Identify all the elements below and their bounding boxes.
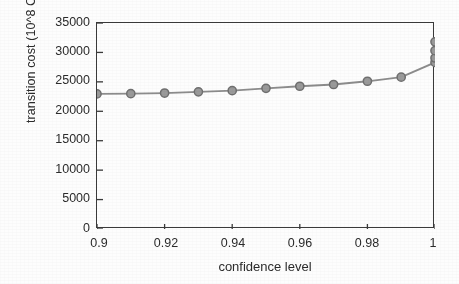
y-tick-label: 20000 [34,104,90,117]
chart-figure: transition cost (10^8 CNY) 35000 30000 2… [0,0,459,284]
x-tick-label: 0.92 [154,236,178,250]
plot-area [96,22,434,228]
y-tick-label: 10000 [34,163,90,176]
y-tick-label: 15000 [34,133,90,146]
y-tick-label: 30000 [34,45,90,58]
y-tick-label: 5000 [34,192,90,205]
x-axis-ticks [97,224,435,229]
x-tick-label: 0.96 [288,236,312,250]
series-markers [97,38,435,98]
plot-canvas [97,23,435,229]
y-tick-label: 25000 [34,74,90,87]
y-tick-label: 35000 [34,16,90,29]
y-axis-tick-labels: 35000 30000 25000 20000 15000 10000 5000… [30,0,90,284]
x-tick-label: 0.94 [221,236,245,250]
x-tick-label: 1 [430,236,437,250]
x-axis-title: confidence level [96,259,434,274]
x-tick-label: 0.9 [90,236,107,250]
x-tick-label: 0.98 [355,236,379,250]
y-tick-label: 0 [34,222,90,235]
y-axis-ticks [97,23,103,229]
